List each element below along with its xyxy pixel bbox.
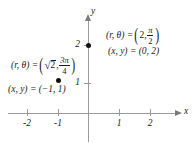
point-b-paren-close: ) — [71, 58, 75, 73]
y-tick-label-2: 2 — [70, 39, 80, 49]
x-tick-label-neg1: -1 — [50, 118, 66, 128]
annotation-point-a-polar: (r, θ) = ( 2 , π 2 ) — [106, 26, 160, 45]
y-tick-label-1: 1 — [70, 77, 80, 87]
point-b-polar-prefix: (r, θ) = — [11, 61, 38, 71]
y-tick-mark-1 — [84, 83, 91, 84]
point-b-paren-open: ( — [39, 58, 43, 73]
point-a-theta-numerator: π — [147, 26, 153, 35]
point-a-theta-fraction: π 2 — [147, 26, 153, 45]
point-b-radius-sqrt: √ 2 — [45, 60, 57, 71]
y-axis-line — [88, 18, 89, 142]
point-b-theta-denominator: 4 — [61, 66, 67, 75]
x-tick-label-2: 2 — [142, 118, 158, 128]
point-b-theta-numerator: 3π — [59, 56, 70, 65]
y-axis-label: y — [91, 6, 95, 16]
x-axis-label: x — [184, 106, 188, 116]
annotation-point-b-cartesian: (x, y) = (−1, 1) — [8, 85, 66, 95]
annotation-point-b-polar: (r, θ) = ( √ 2 , 3π 4 ) — [11, 56, 77, 75]
x-tick-mark-1 — [119, 109, 120, 116]
data-point-b — [56, 78, 61, 83]
x-tick-mark-neg1 — [58, 109, 59, 116]
x-axis-line — [8, 113, 176, 114]
x-tick-mark-neg2 — [27, 109, 28, 116]
data-point-a — [86, 43, 91, 48]
point-a-paren-open: ( — [134, 28, 138, 43]
polar-coordinates-figure: x y -2 -1 1 2 2 1 (r, θ) = ( 2 , π 2 ) (… — [0, 0, 196, 143]
x-tick-label-neg2: -2 — [19, 118, 35, 128]
point-b-theta-fraction: 3π 4 — [59, 56, 70, 75]
point-a-theta-denominator: 2 — [147, 36, 153, 45]
y-axis-arrow-icon — [85, 14, 91, 21]
annotation-point-a-cartesian: (x, y) = (0, 2) — [108, 47, 159, 57]
x-axis-arrow-icon — [175, 110, 182, 116]
x-tick-mark-2 — [150, 109, 151, 116]
x-tick-label-1: 1 — [111, 118, 127, 128]
point-a-paren-close: ) — [155, 28, 159, 43]
point-a-polar-prefix: (r, θ) = — [106, 31, 133, 41]
